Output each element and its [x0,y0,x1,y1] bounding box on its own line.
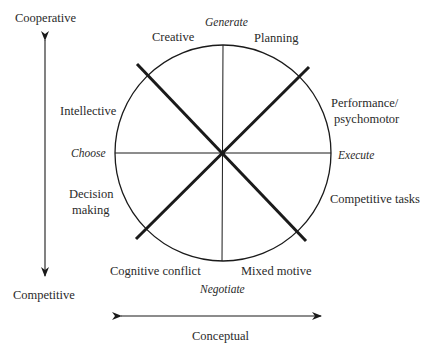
cooperative-label: Cooperative [15,11,77,25]
circumplex-diagram: Cooperative Competitive Conceptual Gener… [0,0,427,354]
intellective-label: Intellective [60,104,117,118]
mixed-motive-label: Mixed motive [241,264,312,278]
choose-label: Choose [71,147,106,159]
execute-label: Execute [337,149,374,161]
decision-label-line1: Decision [69,187,114,201]
cognitive-conflict-label: Cognitive conflict [110,264,201,278]
center-point [221,151,225,155]
conceptual-label: Conceptual [192,329,249,343]
creative-label: Creative [152,30,195,44]
decision-label-line2: making [72,203,110,217]
competitive-label: Competitive [13,288,75,302]
negotiate-label: Negotiate [199,283,245,296]
generate-label: Generate [205,16,248,28]
competitive-tasks-label: Competitive tasks [330,192,420,206]
performance-label-line2: psychomotor [334,112,400,126]
performance-label-line1: Performance/ [331,96,399,110]
planning-label: Planning [254,31,299,45]
